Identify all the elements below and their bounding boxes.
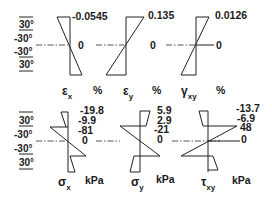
svg-text:τxy: τxy <box>201 175 216 192</box>
angle-label: -30° <box>14 46 32 57</box>
angle-labels-bottom: 30° -30° -30° 30° <box>14 112 34 169</box>
strain-x-subscript: x <box>68 92 73 101</box>
angle-label: 30° <box>19 115 34 126</box>
shear-stress-value-4: 0 <box>241 133 247 145</box>
svg-text:σx: σx <box>58 175 71 192</box>
strain-y-mid-value: 0 <box>150 39 156 51</box>
stress-x-unit: kPa <box>85 174 104 186</box>
shear-stress-value-3: 48 <box>240 121 252 133</box>
stress-x-symbol: σ <box>58 175 66 189</box>
stress-labels: σx kPa σy kPa τxy kPa <box>58 173 251 192</box>
shear-stress-unit: kPa <box>232 174 251 186</box>
strain-x-top-value: -0.0545 <box>72 10 108 22</box>
svg-text:εx: εx <box>62 84 73 101</box>
shear-stress-subscript: xy <box>206 183 215 192</box>
strain-y-top-value: 0.135 <box>148 9 174 21</box>
strain-labels: εx % εy % γxy % <box>62 84 226 101</box>
angle-label: 30° <box>19 59 34 70</box>
strain-x-unit: % <box>93 84 103 96</box>
shear-strain-mid-value: 0 <box>216 39 222 51</box>
svg-text:σy: σy <box>131 175 144 192</box>
svg-text:γxy: γxy <box>181 84 197 101</box>
strain-x-plot: -0.0545 0 <box>57 10 108 75</box>
angle-label: -30° <box>14 143 32 154</box>
stress-y-value-4: 0 <box>157 133 163 145</box>
strain-x-mid-value: 0 <box>78 39 84 51</box>
shear-strain-top-value: 0.0126 <box>215 9 247 21</box>
stress-y-symbol: σ <box>131 175 139 189</box>
angle-label: 30° <box>19 19 34 30</box>
stress-x-plot: -19.8 -9.9 -81 0 <box>50 104 104 172</box>
strain-y-unit: % <box>152 84 162 96</box>
stress-x-subscript: x <box>66 183 71 192</box>
shear-stress-plot: -13.7 -6.9 48 0 <box>181 102 260 172</box>
angle-label: -30° <box>14 129 32 140</box>
stress-y-plot: 5.9 2.9 -21 0 <box>120 104 172 172</box>
stress-y-unit: kPa <box>156 173 175 185</box>
stress-x-value-4: 0 <box>82 134 88 146</box>
angle-label: -30° <box>14 33 32 44</box>
strain-y-plot: 0.135 0 <box>106 9 174 75</box>
shear-strain-subscript: xy <box>188 92 197 101</box>
svg-text:εy: εy <box>123 84 134 101</box>
stress-y-subscript: y <box>139 183 144 192</box>
shear-strain-unit: % <box>216 84 226 96</box>
angle-label: 30° <box>19 157 34 168</box>
shear-strain-plot: 0.0126 0 <box>181 9 247 75</box>
strain-y-subscript: y <box>129 92 134 101</box>
angle-labels-top: 30° -30° -30° 30° <box>14 17 34 71</box>
laminate-diagram: 30° -30° -30° 30° -0.0545 0 0.135 0 0.01… <box>0 0 272 204</box>
